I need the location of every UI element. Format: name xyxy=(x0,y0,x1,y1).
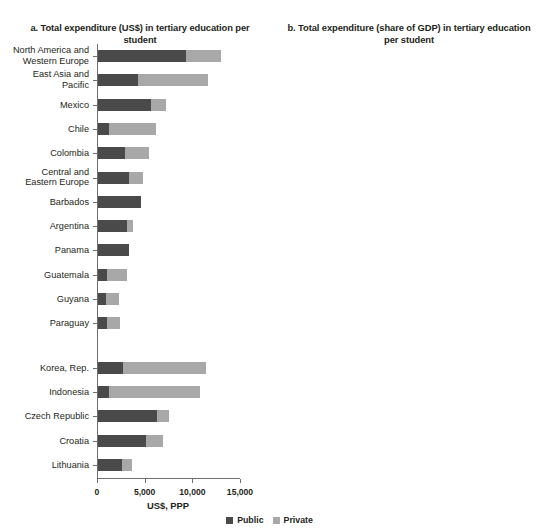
x-axis-tick-label: 10,000 xyxy=(179,487,205,497)
panel-a: a. Total expenditure (US$) in tertiary e… xyxy=(0,0,270,532)
x-axis-tick-label: 5,000 xyxy=(134,487,156,497)
bar-row: Croatia xyxy=(97,435,240,447)
x-axis-tick-label: 15,000 xyxy=(227,487,253,497)
bar-segment-public xyxy=(98,196,141,208)
bar-segment-public xyxy=(98,362,123,374)
category-label: Mexico xyxy=(1,100,97,111)
bar-segment-private xyxy=(109,123,156,135)
bar-segment-public xyxy=(98,147,125,159)
category-label: Indonesia xyxy=(1,387,97,398)
legend-item: Private xyxy=(273,515,313,525)
bar-segment-private xyxy=(138,74,208,86)
category-label: Central and Eastern Europe xyxy=(1,167,97,188)
bar-segment-public xyxy=(98,435,146,447)
stacked-bar xyxy=(98,362,206,374)
category-label: Panama xyxy=(1,245,97,256)
legend-swatch-public xyxy=(226,517,233,524)
bar-segment-public xyxy=(98,317,107,329)
bar-row: Czech Republic xyxy=(97,410,240,422)
category-label: Czech Republic xyxy=(1,411,97,422)
bar-row: Panama xyxy=(97,244,240,256)
category-label: Guatemala xyxy=(1,270,97,281)
category-label: Colombia xyxy=(1,148,97,159)
bar-segment-private xyxy=(129,172,143,184)
category-label: Guyana xyxy=(1,294,97,305)
panel-a-plot-area: North America and Western EuropeEast Asi… xyxy=(97,44,240,478)
bar-segment-public xyxy=(98,293,106,305)
legend-item: Public xyxy=(226,515,263,525)
panel-a-title: a. Total expenditure (US$) in tertiary e… xyxy=(18,22,262,46)
category-label: Paraguay xyxy=(1,318,97,329)
bar-segment-private xyxy=(107,269,127,281)
category-label: Lithuania xyxy=(1,460,97,471)
chart-legend: PublicPrivate xyxy=(0,515,539,525)
stacked-bar xyxy=(98,50,221,62)
legend-swatch-private xyxy=(273,517,280,524)
bar-row: Argentina xyxy=(97,220,240,232)
bar-row: Chile xyxy=(97,123,240,135)
bar-segment-private xyxy=(157,410,169,422)
category-label: Chile xyxy=(1,124,97,135)
category-label: Argentina xyxy=(1,221,97,232)
bar-segment-private xyxy=(123,362,206,374)
bar-row: Lithuania xyxy=(97,459,240,471)
stacked-bar xyxy=(98,196,141,208)
figure-container: a. Total expenditure (US$) in tertiary e… xyxy=(0,0,539,532)
category-label: North America and Western Europe xyxy=(1,45,97,66)
bar-segment-public xyxy=(98,386,109,398)
bar-row: North America and Western Europe xyxy=(97,50,240,62)
panel-b-title: b. Total expenditure (share of GDP) in t… xyxy=(287,22,531,46)
bar-segment-public xyxy=(98,459,122,471)
stacked-bar xyxy=(98,123,156,135)
bar-row: Central and Eastern Europe xyxy=(97,172,240,184)
category-label: Croatia xyxy=(1,436,97,447)
bar-segment-private xyxy=(109,386,200,398)
bar-segment-public xyxy=(98,50,186,62)
stacked-bar xyxy=(98,410,169,422)
stacked-bar xyxy=(98,269,127,281)
bar-row: Barbados xyxy=(97,196,240,208)
bar-segment-public xyxy=(98,172,129,184)
bar-segment-public xyxy=(98,99,151,111)
bar-row: Guyana xyxy=(97,293,240,305)
bar-row: East Asia and Pacific xyxy=(97,74,240,86)
category-label: East Asia and Pacific xyxy=(1,69,97,90)
stacked-bar xyxy=(98,317,120,329)
bar-segment-private xyxy=(146,435,163,447)
x-axis-tick-label: 0 xyxy=(95,487,100,497)
bar-segment-private xyxy=(127,220,134,232)
legend-label: Public xyxy=(237,515,263,525)
stacked-bar xyxy=(98,244,129,256)
bar-segment-public xyxy=(98,220,127,232)
bar-row: Indonesia xyxy=(97,386,240,398)
bar-row: Mexico xyxy=(97,99,240,111)
stacked-bar xyxy=(98,172,143,184)
bar-segment-private xyxy=(125,147,149,159)
stacked-bar xyxy=(98,74,208,86)
bar-segment-public xyxy=(98,123,109,135)
x-axis-tick xyxy=(145,479,146,483)
bar-segment-public xyxy=(98,410,157,422)
bar-row: Colombia xyxy=(97,147,240,159)
bar-segment-private xyxy=(186,50,221,62)
bar-row: Paraguay xyxy=(97,317,240,329)
category-label: Korea, Rep. xyxy=(1,363,97,374)
panel-b: b. Total expenditure (share of GDP) in t… xyxy=(269,0,539,532)
bar-segment-private xyxy=(151,99,165,111)
panel-a-x-axis xyxy=(97,478,240,479)
bar-segment-private xyxy=(107,317,120,329)
stacked-bar xyxy=(98,99,166,111)
stacked-bar xyxy=(98,459,132,471)
legend-label: Private xyxy=(284,515,313,525)
bar-segment-private xyxy=(122,459,132,471)
category-label: Barbados xyxy=(1,197,97,208)
stacked-bar xyxy=(98,386,200,398)
stacked-bar xyxy=(98,293,119,305)
stacked-bar xyxy=(98,435,163,447)
bar-row: Guatemala xyxy=(97,269,240,281)
x-axis-tick xyxy=(192,479,193,483)
bar-segment-public xyxy=(98,244,129,256)
stacked-bar xyxy=(98,220,133,232)
x-axis-tick xyxy=(97,479,98,483)
x-axis-tick xyxy=(240,479,241,483)
